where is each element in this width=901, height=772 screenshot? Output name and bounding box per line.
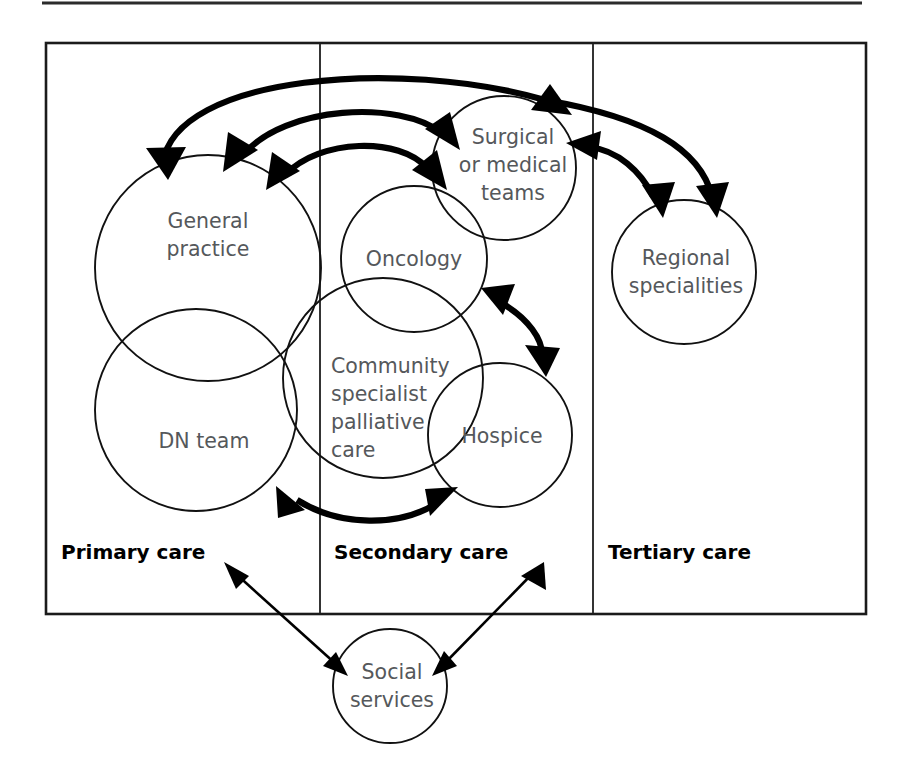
label-community-specialist-palliative-care: Community specialist palliative care xyxy=(331,354,450,462)
palliative-care-services-diagram: General practice DN team Community speci… xyxy=(0,0,901,772)
arrow-dnteam-hospice-path xyxy=(297,500,437,521)
arrow-gp-cspc-path xyxy=(285,146,427,175)
svg-text:services: services xyxy=(350,688,434,712)
arrowhead-to-general-practice-middle xyxy=(223,132,258,172)
arrowhead-to-primary-care xyxy=(224,562,249,589)
svg-text:Oncology: Oncology xyxy=(366,247,462,271)
svg-text:Regional: Regional xyxy=(642,246,730,270)
label-hospice: Hospice xyxy=(461,424,542,448)
label-social-services: Social services xyxy=(350,660,434,712)
label-oncology: Oncology xyxy=(366,247,462,271)
diagram-root: General practice DN team Community speci… xyxy=(0,0,901,772)
arrow-gp-surgical-path xyxy=(163,78,545,163)
label-regional-specialities: Regional specialities xyxy=(629,246,743,298)
svg-text:specialities: specialities xyxy=(629,274,743,298)
arrow-surgical-regional-path xyxy=(589,147,653,196)
arrowhead-to-secondary-care xyxy=(521,562,546,590)
tier-label-tertiary-care: Tertiary care xyxy=(608,540,751,564)
label-dn-team: DN team xyxy=(159,429,250,453)
arrow-primary-social-line xyxy=(235,573,337,665)
circle-social-services[interactable] xyxy=(333,629,447,743)
care-frame-box xyxy=(46,43,866,614)
arrow-secondary-social-line xyxy=(443,573,533,665)
svg-text:Social: Social xyxy=(362,660,423,684)
svg-text:Hospice: Hospice xyxy=(461,424,542,448)
label-surgical-or-medical-teams: Surgical or medical teams xyxy=(459,125,567,205)
svg-text:practice: practice xyxy=(167,237,250,261)
arrowhead-to-hospice-lower xyxy=(425,487,458,516)
arrowhead-to-regional-specialities-short xyxy=(642,182,675,218)
arrowhead-to-general-practice-outer xyxy=(146,147,186,180)
svg-text:specialist: specialist xyxy=(331,382,427,406)
tier-label-secondary-care: Secondary care xyxy=(334,540,508,564)
circle-dn-team[interactable] xyxy=(95,309,297,511)
svg-text:care: care xyxy=(331,438,375,462)
svg-text:palliative: palliative xyxy=(331,410,425,434)
svg-text:Surgical: Surgical xyxy=(472,125,554,149)
circle-regional-specialities[interactable] xyxy=(612,200,756,344)
svg-text:or medical: or medical xyxy=(459,153,567,177)
svg-text:teams: teams xyxy=(481,181,545,205)
svg-text:General: General xyxy=(168,209,249,233)
tier-label-primary-care: Primary care xyxy=(61,540,205,564)
svg-text:Community: Community xyxy=(331,354,450,378)
svg-text:DN team: DN team xyxy=(159,429,250,453)
label-general-practice: General practice xyxy=(167,209,250,261)
arrowhead-to-surgical-teams-from-regional xyxy=(566,131,601,160)
arrowhead-to-oncology-middle xyxy=(425,112,460,150)
arrowhead-to-hospice-from-oncology xyxy=(525,345,560,377)
